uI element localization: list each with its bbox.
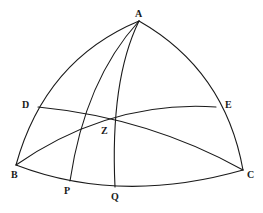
label-D: D	[22, 99, 29, 110]
label-Z: Z	[101, 125, 108, 136]
label-P: P	[64, 185, 70, 196]
label-Q: Q	[111, 191, 119, 202]
label-B: B	[11, 169, 18, 180]
arc-DC	[38, 107, 243, 170]
label-E: E	[225, 99, 232, 110]
label-C: C	[247, 169, 254, 180]
arc-AQ	[114, 21, 139, 187]
arc-BC	[16, 165, 243, 186]
arc-AC	[139, 21, 243, 170]
label-A: A	[135, 8, 143, 19]
arc-AP	[70, 21, 139, 181]
spherical-triangle-figure: A B C D E Z P Q	[0, 0, 263, 213]
